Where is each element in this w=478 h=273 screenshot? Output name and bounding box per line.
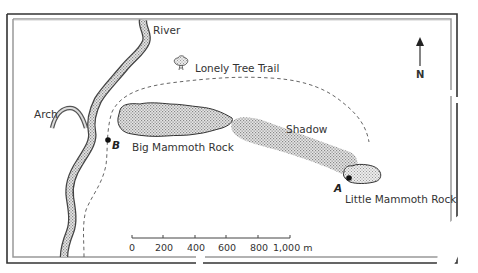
scale-tick-600: 600 xyxy=(218,242,236,253)
point-a-marker xyxy=(346,175,352,181)
river-label: River xyxy=(153,24,181,36)
map-canvas: River Lonely Tree Trail Arch Shadow Big … xyxy=(0,0,478,273)
scale-bar xyxy=(132,235,290,238)
north-label: N xyxy=(416,69,424,80)
shadow-label: Shadow xyxy=(286,123,328,135)
lonely-tree-trail-label: Lonely Tree Trail xyxy=(195,62,279,74)
river xyxy=(64,20,147,257)
big-mammoth-rock xyxy=(118,103,233,137)
scale-tick-200: 200 xyxy=(155,242,173,253)
big-mammoth-rock-label: Big Mammoth Rock xyxy=(132,141,235,153)
arch-label: Arch xyxy=(34,108,58,120)
point-a-label: A xyxy=(333,182,342,194)
little-mammoth-rock-label: Little Mammoth Rock xyxy=(345,193,457,205)
north-arrow-icon xyxy=(416,37,424,66)
tree-icon xyxy=(174,56,188,70)
point-b-marker xyxy=(105,137,111,143)
scale-tick-400: 400 xyxy=(187,242,205,253)
scale-tick-0: 0 xyxy=(129,242,135,253)
scale-tick-800: 800 xyxy=(250,242,268,253)
point-b-label: B xyxy=(112,139,120,151)
scale-tick-1000: 1,000 m xyxy=(273,242,312,253)
